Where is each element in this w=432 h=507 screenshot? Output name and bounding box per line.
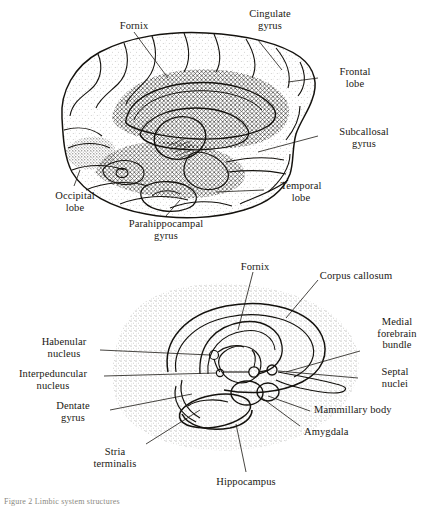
- label-amygdala: Amygdala: [304, 426, 382, 438]
- label-interpeduncular-nucleus: Interpeduncular nucleus: [2, 368, 104, 391]
- label-medial-forebrain-bundle: Medial forebrain bundle: [364, 316, 430, 351]
- label-subcallosal-gyrus: Subcallosal gyrus: [322, 126, 406, 149]
- label-cingulate-gyrus: Cingulate gyrus: [232, 8, 308, 31]
- figure-limbic-system: Fornix Cingulate gyrus Frontal lobe Subc…: [0, 0, 432, 507]
- label-corpus-callosum: Corpus callosum: [304, 270, 408, 282]
- label-septal-nuclei: Septal nuclei: [364, 366, 426, 389]
- label-frontal-lobe: Frontal lobe: [322, 66, 388, 89]
- label-dentate-gyrus: Dentate gyrus: [42, 400, 104, 423]
- label-temporal-lobe: Temporal lobe: [268, 180, 334, 203]
- label-fornix-lower: Fornix: [228, 261, 282, 273]
- label-occipital-lobe: Occipital lobe: [44, 190, 106, 213]
- label-hippocampus: Hippocampus: [196, 476, 296, 488]
- label-fornix-upper: Fornix: [104, 20, 164, 32]
- label-habenular-nucleus: Habenular nucleus: [28, 336, 100, 359]
- label-mammillary-body: Mammillary body: [314, 404, 432, 416]
- label-parahippocampal-gyrus: Parahippocampal gyrus: [110, 218, 222, 241]
- figure-caption: Figure 2 Limbic system structures: [4, 497, 120, 506]
- label-stria-terminalis: Stria terminalis: [84, 446, 146, 469]
